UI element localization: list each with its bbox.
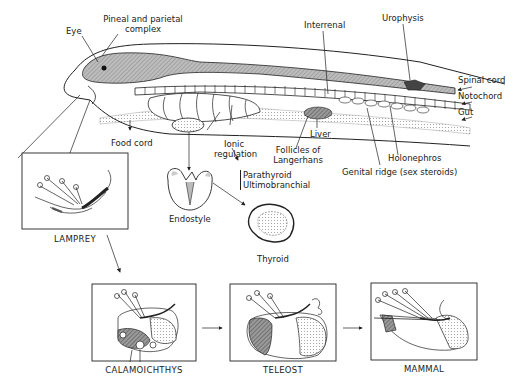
label-genital-ridge: Genital ridge (sex steroids)	[342, 167, 457, 177]
label-liver: Liver	[310, 129, 331, 139]
label-interrenal: Interrenal	[304, 20, 345, 30]
label-endostyle: Endostyle	[169, 214, 211, 224]
label-thyroid: Thyroid	[257, 254, 289, 264]
label-gut: Gut	[458, 107, 473, 117]
label-follicles-line1: Follicles of	[268, 145, 328, 155]
label-ionic-line1: Ionic	[214, 139, 254, 149]
label-spinal-cord: Spinal cord	[458, 75, 505, 85]
caption-lamprey: LAMPREY	[22, 234, 128, 244]
label-follicles-of-langerhans: Follicles of Langerhans	[268, 145, 328, 165]
label-notochord: Notochord	[458, 91, 502, 101]
endostyle-drawing	[168, 169, 213, 210]
label-parathyroid-group: Parathyroid Ultimobranchial	[240, 170, 310, 190]
fish-body	[64, 44, 505, 146]
diagram-canvas	[0, 0, 515, 390]
thyroid-drawing	[248, 204, 293, 242]
label-eye: Eye	[66, 26, 82, 36]
label-urophysis: Urophysis	[382, 13, 424, 23]
label-pineal-line2: complex	[98, 24, 188, 34]
caption-teleost: TELEOST	[230, 365, 336, 375]
label-holonephros: Holonephros	[388, 153, 442, 163]
label-food-cord: Food cord	[111, 138, 153, 148]
label-parathyroid: Parathyroid	[243, 170, 310, 180]
caption-mammal: MAMMAL	[371, 364, 477, 374]
label-pineal-line1: Pineal and parietal	[98, 14, 188, 24]
label-ultimobranchial: Ultimobranchial	[243, 180, 310, 190]
caption-calamoichthys: CALAMOICHTHYS	[86, 365, 202, 375]
label-ionic-regulation: Ionic regulation	[214, 139, 254, 159]
panel-lamprey-box	[22, 153, 128, 229]
label-follicles-line2: Langerhans	[268, 155, 328, 165]
label-pineal: Pineal and parietal complex	[98, 14, 188, 34]
label-ionic-line2: regulation	[214, 149, 254, 159]
